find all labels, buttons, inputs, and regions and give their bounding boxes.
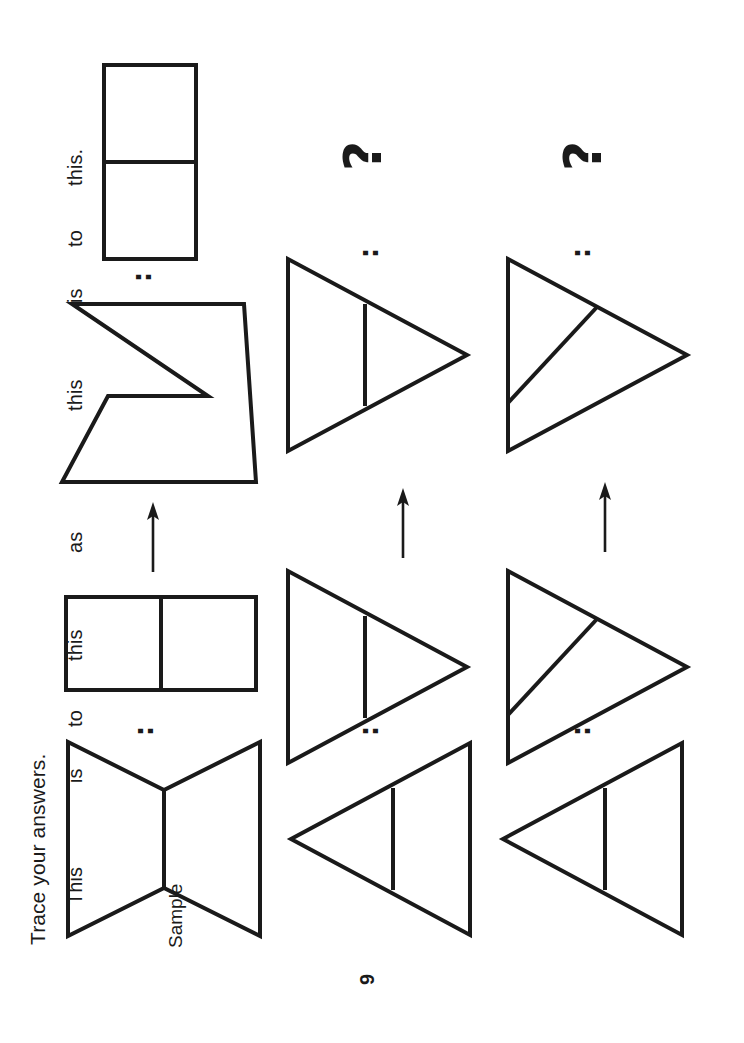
sample-shape-a-bowtie-pointed	[64, 738, 264, 940]
ratio-colon-row1-2: :	[356, 248, 382, 258]
question-mark-row2: ?	[557, 141, 609, 171]
question-mark-row1: ?	[337, 141, 389, 171]
row2-shape-c-triangle-left	[505, 256, 691, 454]
arrow-up-icon-sample	[140, 500, 166, 572]
prompt-word-this4: this.	[64, 149, 87, 186]
instruction-text: Trace your answers.	[26, 754, 50, 945]
ratio-colon-row2-2: :	[568, 248, 594, 258]
sample-shape-d-rectangle-tall-split	[101, 62, 199, 262]
row1-shape-a-triangle-left	[288, 740, 474, 938]
row2-shape-a-triangle-left	[500, 740, 686, 938]
prompt-word-to2: to	[64, 230, 87, 247]
sample-shape-b-rectangle-split	[63, 594, 259, 693]
arrow-up-icon-row1	[390, 486, 416, 558]
page-number: 9	[356, 974, 379, 985]
arrow-up-icon-row2	[592, 480, 618, 552]
ratio-colon-sample-1: :	[131, 726, 157, 736]
row1-shape-c-triangle-left	[285, 256, 471, 454]
row2-shape-b-triangle-right	[505, 568, 691, 766]
ratio-colon-sample-2: :	[129, 272, 155, 282]
worksheet-page: Trace your answers. This is to this as t…	[0, 0, 744, 1043]
prompt-word-to1: to	[64, 710, 87, 727]
prompt-word-as: as	[64, 532, 87, 553]
sample-label: Sample	[165, 884, 187, 948]
row1-shape-b-triangle-right	[285, 568, 471, 766]
